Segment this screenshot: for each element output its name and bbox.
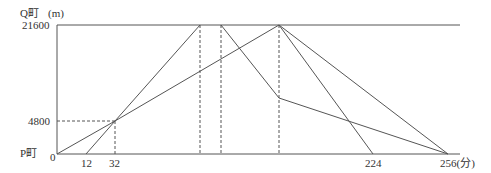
q-town-label: Q町 xyxy=(20,8,39,19)
x32-label: 32 xyxy=(109,158,120,169)
y-mid-label: 4800 xyxy=(28,116,50,127)
unit-m-label: (m) xyxy=(48,8,64,19)
series-line-c xyxy=(279,25,373,154)
chart-canvas xyxy=(0,0,491,173)
origin-label: 0 xyxy=(50,152,56,163)
x256-label: 256(分) xyxy=(440,158,475,169)
p-town-label: P町 xyxy=(20,148,37,159)
x12-label: 12 xyxy=(81,158,92,169)
y-max-label: 21600 xyxy=(22,20,50,31)
series-line-d xyxy=(221,25,448,154)
series-line-b xyxy=(86,25,200,154)
x224-label: 224 xyxy=(365,158,382,169)
